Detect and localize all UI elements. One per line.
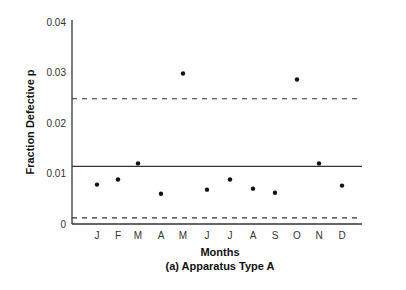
- x-tick-label: F: [115, 230, 121, 241]
- x-tick-label: O: [293, 230, 301, 241]
- y-tick-label: 0.02: [47, 118, 67, 129]
- x-tick-label: N: [315, 230, 322, 241]
- y-tick-label: 0: [60, 219, 66, 230]
- data-point: [251, 186, 255, 190]
- y-tick-label: 0.01: [47, 168, 67, 179]
- x-tick-label: J: [95, 230, 100, 241]
- data-point: [159, 192, 163, 196]
- control-chart: 00.010.020.030.04JFMAMJJASONDMonths(a) A…: [0, 0, 406, 290]
- data-point: [273, 190, 277, 194]
- y-tick-label: 0.03: [47, 67, 67, 78]
- data-point: [116, 177, 120, 181]
- data-point: [205, 187, 209, 191]
- data-point: [228, 177, 232, 181]
- x-tick-label: S: [272, 230, 279, 241]
- data-point: [95, 182, 99, 186]
- x-tick-label: A: [250, 230, 257, 241]
- data-point: [295, 77, 299, 81]
- y-axis-label: Fraction Defective p: [24, 69, 36, 174]
- x-tick-label: A: [158, 230, 165, 241]
- data-point: [181, 71, 185, 75]
- x-tick-label: D: [338, 230, 345, 241]
- x-tick-label: J: [228, 230, 233, 241]
- data-point: [317, 161, 321, 165]
- x-tick-label: M: [134, 230, 142, 241]
- x-axis-label: Months: [200, 246, 239, 258]
- x-tick-label: M: [179, 230, 187, 241]
- data-point: [136, 161, 140, 165]
- data-point: [340, 183, 344, 187]
- x-tick-label: J: [205, 230, 210, 241]
- y-tick-label: 0.04: [47, 17, 67, 28]
- chart-title: (a) Apparatus Type A: [166, 260, 275, 272]
